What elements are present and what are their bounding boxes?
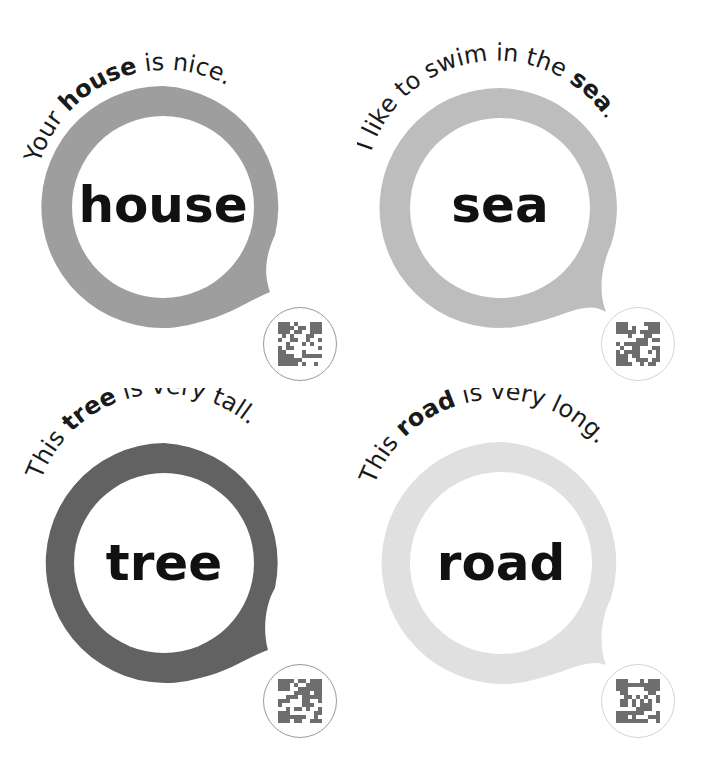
- qr-code-icon: [616, 679, 660, 723]
- vocab-word: house: [78, 176, 247, 234]
- flashcard-road: This road is very long. road: [357, 388, 714, 776]
- qr-code-icon: [278, 679, 322, 723]
- qr-code-icon: [278, 322, 322, 366]
- vocab-word: tree: [106, 534, 222, 592]
- qr-code-badge[interactable]: [263, 664, 337, 738]
- vocab-word: road: [437, 534, 566, 592]
- flashcard-tree: This tree is very tall. tree: [0, 388, 357, 776]
- qr-code-icon: [616, 322, 660, 366]
- qr-code-badge[interactable]: [601, 664, 675, 738]
- vocab-word: sea: [451, 176, 548, 234]
- flashcard-sea: I like to swim in the sea. sea: [357, 0, 714, 388]
- flashcard-house: Your house is nice. house: [0, 0, 357, 388]
- qr-code-badge[interactable]: [601, 307, 675, 381]
- qr-code-badge[interactable]: [263, 307, 337, 381]
